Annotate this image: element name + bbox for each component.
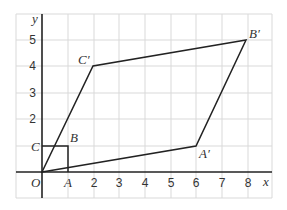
x-tick-6: 6 xyxy=(193,176,200,190)
x-tick-8: 8 xyxy=(245,176,252,190)
origin-label: O xyxy=(31,175,41,190)
y-tick-5: 5 xyxy=(29,33,36,47)
point-label-b: B xyxy=(70,130,78,145)
x-tick-4: 4 xyxy=(142,176,149,190)
y-axis-label: y xyxy=(30,11,38,26)
point-label-a: A xyxy=(63,175,72,190)
coordinate-diagram: 2 3 4 5 6 7 8 2 3 4 5 x y O A B C A′ B′ … xyxy=(0,0,287,210)
x-tick-2: 2 xyxy=(91,176,98,190)
y-tick-3: 3 xyxy=(29,86,36,100)
point-label-a-prime: A′ xyxy=(198,146,210,161)
point-label-c-prime: C′ xyxy=(78,52,90,67)
parallelogram-image xyxy=(42,40,246,172)
point-label-c: C xyxy=(31,139,40,154)
x-axis-label: x xyxy=(262,174,269,189)
x-tick-7: 7 xyxy=(219,176,226,190)
point-label-b-prime: B′ xyxy=(249,26,260,41)
x-tick-3: 3 xyxy=(116,176,123,190)
y-tick-4: 4 xyxy=(29,59,36,73)
y-tick-2: 2 xyxy=(29,112,36,126)
x-tick-5: 5 xyxy=(168,176,175,190)
